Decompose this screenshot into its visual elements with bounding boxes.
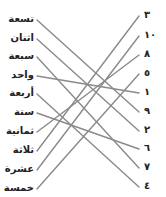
word-item: خمسة <box>4 182 34 194</box>
numeral-item: ٣ <box>144 9 150 21</box>
numeral-item: ٦ <box>144 142 150 154</box>
word-item: واحد <box>11 69 34 81</box>
connection-line <box>37 57 139 168</box>
word-item: اثنان <box>10 32 34 44</box>
numeral-item: ١٠ <box>144 29 156 41</box>
word-item: ستة <box>14 106 34 118</box>
numeral-item: ٩ <box>144 105 150 117</box>
numeral-item: ٢ <box>144 124 150 136</box>
numeral-item: ٨ <box>144 48 150 60</box>
word-item: تسعة <box>8 13 34 25</box>
numeral-item: ٥ <box>144 67 150 79</box>
connection-line <box>37 94 139 187</box>
word-item: ثمانية <box>6 125 34 137</box>
word-item: ثلاثة <box>13 144 34 156</box>
connection-line <box>37 36 139 170</box>
word-item: سبعة <box>8 50 34 62</box>
numeral-item: ٤ <box>144 180 150 192</box>
word-item: عشرة <box>5 163 34 175</box>
numeral-item: ٧ <box>144 161 150 173</box>
word-item: أربعة <box>9 87 34 99</box>
numeral-item: ١ <box>144 86 150 98</box>
matching-diagram: تسعة اثنان سبعة واحد أربعة ستة ثمانية ثل… <box>0 0 166 197</box>
